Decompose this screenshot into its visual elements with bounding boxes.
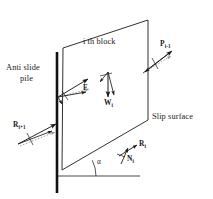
force-vector-Wi <box>100 72 114 97</box>
force-label-Ni: Ni <box>127 155 134 165</box>
force-label-F: F <box>83 84 88 94</box>
force-label-Wi: Wi <box>104 99 113 109</box>
landslide-block-force-diagram: i th block Anti slide pile Slip surface … <box>0 0 213 199</box>
force-symbol-F: F <box>83 83 88 92</box>
force-subscript-R: i <box>144 143 146 149</box>
anti-slide-pile-label-line1: Anti slide <box>6 64 40 73</box>
slip-surface-label: Slip surface <box>152 113 193 122</box>
slip-angle-arc <box>92 160 96 176</box>
force-vector-Pi-1 <box>143 51 172 73</box>
force-symbol-W: W <box>104 98 112 107</box>
force-subscript-R-plus: i+1 <box>18 124 25 130</box>
force-subscript-P: i-1 <box>165 43 171 49</box>
force-subscript-W: i <box>112 102 114 108</box>
slip-angle-label: α <box>97 159 101 167</box>
anti-slide-pile-label-line2: pile <box>20 75 33 84</box>
block-title-label: i th block <box>83 38 116 47</box>
force-label-Pi-1: Pi-1 <box>160 40 171 50</box>
force-label-Ri: Ri <box>139 140 146 150</box>
force-subscript-N: i <box>132 158 134 164</box>
force-label-Ri-plus-1: Ri+1 <box>13 121 26 131</box>
